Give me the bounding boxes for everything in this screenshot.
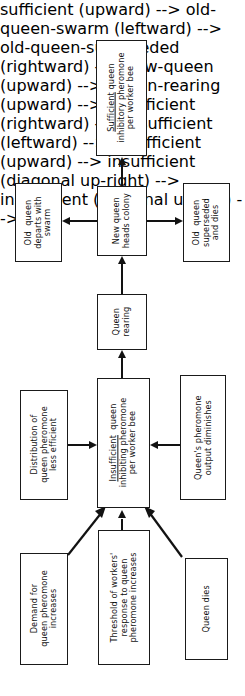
underlined-word: Insufficient — [108, 436, 118, 483]
arrowhead-up — [118, 256, 126, 264]
node-label: Queen's pheromone output diminishes — [193, 395, 212, 480]
edge-queens-output-to-insufficient — [158, 444, 180, 446]
flowchart-canvas: Sufficient queen inhibitory pheromone pe… — [0, 0, 245, 696]
node-insufficient-queen-pheromone: Insufficient queen inhibiting pheromone … — [97, 378, 150, 508]
underlined-word: Sufficient — [106, 93, 116, 133]
node-threshold-of-workers-response: Threshold of workers' response to queen … — [98, 530, 150, 665]
node-queen-rearing: Queen rearing — [97, 294, 147, 350]
arrowhead-left — [62, 217, 70, 225]
edge-threshold-to-insufficient — [121, 519, 123, 530]
node-new-queen-heads-colony: New queen heads colony — [97, 186, 147, 256]
node-label: Old queen superseded and dies — [192, 198, 221, 247]
node-label: Threshold of workers' response to queen … — [110, 552, 139, 642]
node-label: New queen heads colony — [112, 193, 131, 248]
node-distribution-of-queen-pheromone: Distribution of queen pheromone less eff… — [20, 390, 68, 500]
edge-distribution-to-insufficient — [68, 444, 89, 446]
node-demand-for-queen-pheromone: Demand for queen pheromone increases — [20, 553, 68, 665]
edge-new-queen-to-old-queen-superseded — [147, 220, 175, 222]
arrowhead-up — [118, 510, 126, 518]
node-label: Insufficient queen inhibiting pheromone … — [109, 398, 138, 488]
arrowhead-left — [150, 441, 158, 449]
arrowhead-right — [89, 441, 97, 449]
arrowhead-up — [118, 350, 126, 358]
node-label: Demand for queen pheromone increases — [29, 571, 58, 648]
node-label: Queen dies — [202, 585, 212, 632]
edge-queen-rearing-to-new-queen — [121, 264, 123, 294]
node-label: Queen rearing — [112, 298, 131, 346]
node-label: Old queen departs with swarm — [24, 196, 53, 248]
edge-new-queen-to-old-queen-swarm — [70, 220, 97, 222]
node-old-queen-departs-with-swarm: Old queen departs with swarm — [15, 183, 62, 262]
node-sufficient-queen-pheromone: Sufficient queen inhibitory pheromone pe… — [96, 40, 147, 156]
node-label: Sufficient queen inhibitory pheromone pe… — [107, 53, 136, 143]
arrowhead-up — [118, 157, 126, 165]
node-queen-dies: Queen dies — [185, 558, 228, 660]
node-old-queen-superseded-and-dies: Old queen superseded and dies — [183, 183, 230, 262]
edge-new-queen-to-sufficient — [121, 165, 123, 186]
node-label: Distribution of queen pheromone less eff… — [29, 407, 58, 484]
arrowhead-right — [175, 217, 183, 225]
node-queens-pheromone-output-diminishes: Queen's pheromone output diminishes — [180, 375, 226, 500]
edge-insufficient-to-queen-rearing — [121, 358, 123, 378]
